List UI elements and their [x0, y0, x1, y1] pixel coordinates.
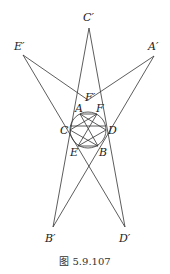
label-d-prime: D′	[118, 232, 131, 245]
label-d: D	[107, 124, 117, 137]
star-lines	[23, 28, 154, 227]
label-e-prime: E′	[13, 40, 25, 53]
chords	[70, 114, 106, 146]
label-e: E	[69, 146, 78, 159]
label-b: B	[98, 146, 107, 159]
label-f: F	[95, 102, 104, 115]
label-a: A	[74, 102, 83, 115]
circle	[70, 112, 106, 148]
geometry-figure: C′ E′ A′ F′ A F C D E B B′ D′	[0, 0, 170, 274]
label-b-prime: B′	[44, 232, 56, 245]
label-c: C	[60, 124, 69, 137]
figure-caption: 图 5.9.107	[0, 253, 170, 268]
label-a-prime: A′	[147, 40, 159, 53]
label-f-prime: F′	[84, 91, 96, 104]
label-c-prime: C′	[83, 11, 94, 24]
line-eprime-fprime	[23, 55, 88, 100]
